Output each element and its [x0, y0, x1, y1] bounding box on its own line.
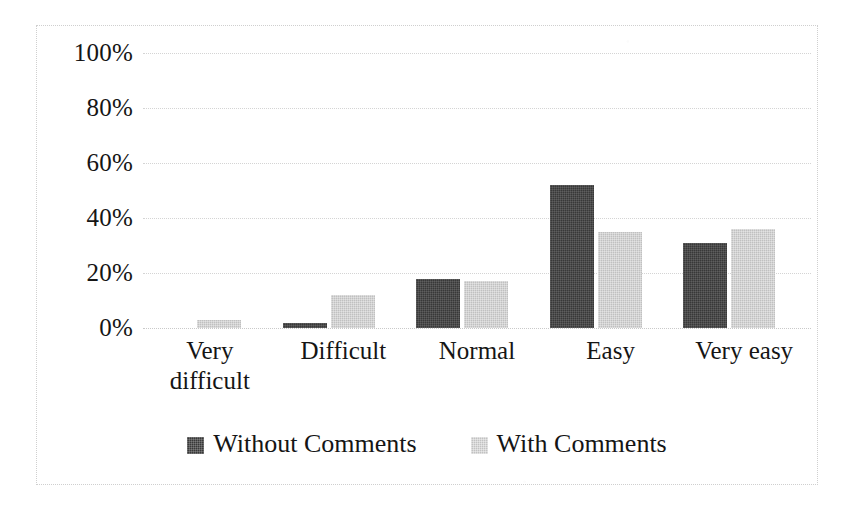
bar — [683, 243, 727, 328]
bar — [197, 320, 241, 328]
chart-frame: 100%80%60%40%20%0% VerydifficultDifficul… — [36, 25, 818, 485]
legend-swatch-icon — [187, 437, 204, 454]
bar — [598, 232, 642, 328]
bar — [416, 279, 460, 329]
y-tick-label-100pct: 100% — [43, 40, 133, 65]
x-tick-label: Verydifficult — [143, 336, 277, 395]
y-tick-label-80pct: 80% — [43, 95, 133, 120]
bar — [550, 185, 594, 328]
x-tick-label: Easy — [544, 336, 678, 366]
legend-swatch-icon — [471, 437, 488, 454]
bar-group — [143, 53, 277, 328]
legend-item[interactable]: Without Comments — [187, 431, 416, 457]
bar — [331, 295, 375, 328]
bar-group — [410, 53, 544, 328]
x-tick-label-line: Normal — [410, 336, 544, 366]
x-tick-label-line: Very — [143, 336, 277, 366]
x-tick-label-line: difficult — [143, 366, 277, 396]
bar-group — [544, 53, 678, 328]
legend-item[interactable]: With Comments — [471, 431, 667, 457]
bar-group — [677, 53, 811, 328]
y-axis-tick-labels: 100%80%60%40%20%0% — [37, 53, 133, 328]
x-axis-tick-labels: VerydifficultDifficultNormalEasyVery eas… — [143, 336, 811, 412]
bar — [731, 229, 775, 328]
legend-label: Without Comments — [213, 431, 416, 457]
chart-legend: Without CommentsWith Comments — [37, 431, 817, 457]
x-tick-label: Very easy — [677, 336, 811, 366]
bar-group — [277, 53, 411, 328]
legend-label: With Comments — [497, 431, 667, 457]
y-tick-label-20pct: 20% — [43, 260, 133, 285]
bar — [464, 281, 508, 328]
gridline-0% — [143, 328, 811, 329]
x-tick-label-line: Very easy — [677, 336, 811, 366]
y-tick-label-60pct: 60% — [43, 150, 133, 175]
x-tick-label-line: Easy — [544, 336, 678, 366]
bar — [283, 323, 327, 329]
x-tick-label-line: Difficult — [277, 336, 411, 366]
y-tick-label-40pct: 40% — [43, 205, 133, 230]
y-tick-label-0pct: 0% — [43, 315, 133, 340]
plot-area — [143, 53, 811, 328]
x-tick-label: Difficult — [277, 336, 411, 366]
x-tick-label: Normal — [410, 336, 544, 366]
